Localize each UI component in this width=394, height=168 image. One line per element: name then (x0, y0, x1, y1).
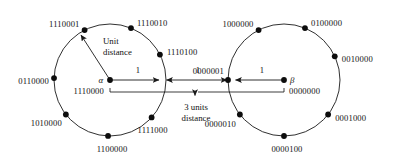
right-sphere-node-dot (225, 77, 231, 83)
unit-distance-label-line2: distance (103, 47, 132, 57)
right-sphere-node-dot (281, 133, 287, 139)
left-sphere-node-label: 1100000 (97, 144, 128, 154)
left-sphere-node-dot (82, 27, 88, 33)
segment-label-middle: 1 (196, 65, 200, 75)
diagram-canvas: 1110010111000101100001010000110000011110… (0, 0, 394, 168)
right-sphere-node-dot (302, 25, 308, 31)
left-sphere-node-label: 1110001 (49, 19, 80, 29)
left-sphere-node-dot (63, 112, 69, 118)
beta-center-node (281, 77, 287, 83)
three-units-label-line1: 3 units (184, 102, 208, 112)
unit-distance-label-line1: Unit (103, 36, 119, 46)
beta-symbol: β (289, 75, 295, 85)
left-sphere-node-dot (157, 52, 163, 58)
right-sphere-node-label: 0000100 (271, 144, 302, 154)
alpha-center-node (107, 77, 113, 83)
alpha-symbol: α (98, 75, 103, 85)
right-sphere-node-label: 0100000 (311, 18, 342, 28)
segment-label-right: 1 (260, 65, 264, 75)
hamming-sphere-diagram: 1110010111000101100001010000110000011110… (0, 0, 394, 168)
left-sphere-node-dot (51, 75, 57, 81)
right-sphere-nodes: 0100000100000000000010000010000010000010… (193, 18, 373, 154)
three-units-label-line2: distance (182, 113, 211, 123)
left-sphere-node-dot (128, 25, 134, 31)
right-sphere-node-dot (332, 53, 338, 59)
right-sphere-node-dot (256, 27, 262, 33)
segment-label-left: 1 (136, 65, 140, 75)
left-sphere-node-label: 1110100 (167, 47, 198, 57)
left-sphere-node-label: 0110000 (18, 76, 49, 86)
left-sphere-node-label: 1110010 (137, 18, 168, 28)
right-sphere-node-label: 1000000 (222, 19, 253, 29)
right-sphere-node-dot (237, 112, 243, 118)
alpha-codeword-label: 1110000 (74, 86, 105, 96)
right-sphere-node-label: 0001000 (335, 113, 366, 123)
left-sphere-node-label: 1010000 (31, 118, 62, 128)
left-sphere-node-dot (105, 133, 111, 139)
three-units-brace (110, 88, 284, 96)
right-sphere-node-dot (325, 112, 331, 118)
left-sphere-node-dot (149, 115, 155, 121)
right-sphere-node-label: 0010000 (342, 54, 373, 64)
beta-codeword-label: 0000000 (289, 86, 320, 96)
left-sphere-node-label: 1111000 (138, 125, 168, 135)
